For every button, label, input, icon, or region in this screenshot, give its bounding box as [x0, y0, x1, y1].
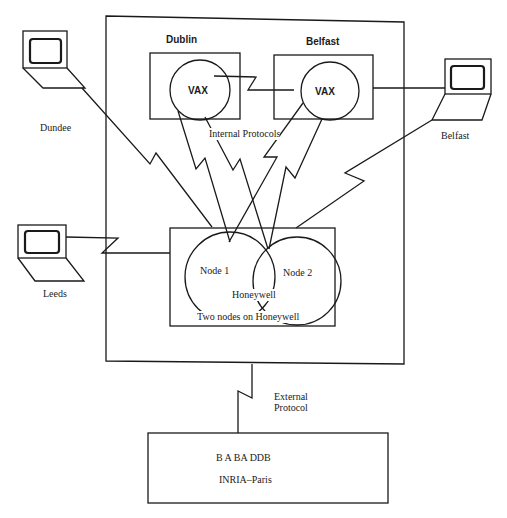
internal-protocols-label: Internal Protocols — [209, 128, 280, 140]
link-belfast-terminal-honeywell — [296, 120, 432, 228]
vax-vax-link — [214, 76, 294, 90]
link-leeds-honeywell — [66, 237, 170, 253]
remote-location-label: INRIA–Paris — [219, 474, 272, 486]
dublin-vax-label: VAX — [188, 85, 208, 97]
network-diagram — [0, 0, 507, 518]
dundee-terminal-icon — [23, 31, 85, 88]
leeds-label: Leeds — [43, 288, 67, 300]
dublin-label: Dublin — [166, 34, 197, 46]
node1-circle — [185, 232, 275, 322]
honeywell-center-label: Honeywell — [232, 289, 276, 301]
belfast-vax-label: VAX — [315, 86, 335, 98]
belfast-site-label: Belfast — [306, 36, 339, 48]
remote-system-label: B A BA DDB — [216, 452, 271, 464]
leeds-terminal-icon — [18, 225, 84, 281]
external-protocol-label-2: Protocol — [274, 402, 308, 414]
honeywell-caption: Two nodes on Honeywell — [197, 311, 299, 323]
link-belfast-node1 — [229, 103, 303, 242]
dundee-label: Dundee — [40, 122, 71, 134]
belfast-terminal-icon — [432, 59, 491, 120]
node1-label: Node 1 — [200, 265, 229, 277]
belfast-terminal-label: Belfast — [441, 130, 469, 142]
link-external-protocol — [238, 364, 252, 433]
remote-system-box — [148, 433, 388, 503]
node2-label: Node 2 — [283, 267, 312, 279]
